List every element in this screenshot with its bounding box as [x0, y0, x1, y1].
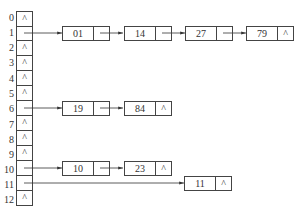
- null-pointer-icon: ^: [278, 27, 293, 40]
- list-node: 27: [185, 26, 233, 41]
- node-key: 19: [63, 102, 94, 115]
- list-node: 19: [62, 101, 110, 116]
- null-pointer-icon: ^: [216, 177, 231, 190]
- null-pointer-icon: ^: [156, 162, 171, 175]
- node-key: 84: [125, 102, 156, 115]
- list-node: 11^: [184, 176, 232, 191]
- list-node: 10: [62, 161, 110, 176]
- list-node: 84^: [124, 101, 172, 116]
- null-pointer-icon: ^: [156, 102, 171, 115]
- node-key: 79: [247, 27, 278, 40]
- node-key: 14: [125, 27, 156, 40]
- list-node: 01: [62, 26, 110, 41]
- node-key: 10: [63, 162, 94, 175]
- node-key: 23: [125, 162, 156, 175]
- node-key: 11: [185, 177, 216, 190]
- node-key: 01: [63, 27, 94, 40]
- list-node: 23^: [124, 161, 172, 176]
- list-node: 14: [124, 26, 172, 41]
- list-node: 79^: [246, 26, 294, 41]
- node-key: 27: [186, 27, 217, 40]
